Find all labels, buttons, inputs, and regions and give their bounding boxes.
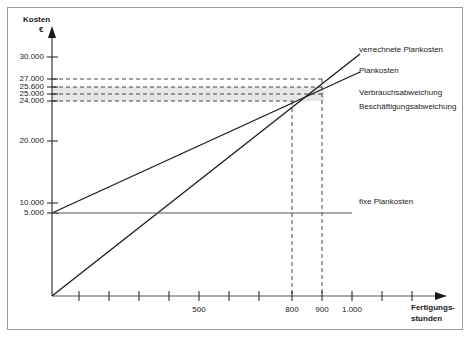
x-tick-label-1000: 1.000: [337, 305, 367, 314]
x-axis-title-line1: Fertigungs-: [411, 303, 455, 313]
series-label-plankosten: Plankosten: [359, 66, 399, 75]
x-axis-title-line2: stunden: [411, 314, 442, 324]
series-label-fixe-plankosten: fixe Plankosten: [359, 197, 413, 206]
y-axis-arrow-icon: [48, 26, 56, 38]
y-tick-label-5000: 5.000: [0, 208, 44, 217]
y-tick-label-30000: 30.000: [0, 52, 44, 61]
annotation-verbrauchsabweichung: Verbrauchsabweichung: [359, 88, 442, 97]
y-axis-title-line1: Kosten: [23, 15, 50, 25]
series-label-verrechnete-plankosten: verrechnete Plankosten: [359, 45, 443, 54]
x-tick-label-800: 800: [277, 305, 307, 314]
y-tick-label-10000: 10.000: [0, 198, 44, 207]
x-tick-label-900: 900: [307, 305, 337, 314]
x-tick-label-500: 500: [184, 305, 214, 314]
y-tick-label-24000: 24.000: [0, 96, 44, 105]
y-axis-title-line2: €: [39, 25, 43, 35]
y-tick-label-20000: 20.000: [0, 136, 44, 145]
x-axis-arrow-icon: [435, 292, 447, 300]
chart-figure: Kosten € 30.000 27.000 25.600 25.000 24.…: [0, 0, 470, 337]
annotation-beschaeftigungsabweichung: Beschäftigungsabweichung: [359, 102, 456, 111]
